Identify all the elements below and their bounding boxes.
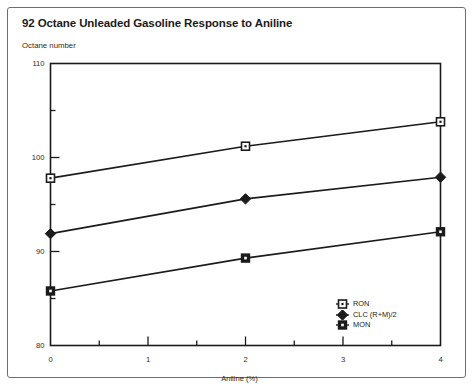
series-1 (47, 118, 445, 182)
x-axis-title: Aniline (%) (0, 374, 475, 383)
marker-open-square-dot (49, 177, 51, 179)
marker-filled-diamond (435, 172, 445, 182)
y-tick-label: 100 (21, 153, 45, 162)
marker-filled-square-dot (341, 324, 344, 327)
legend-item-mon: MON (336, 320, 397, 330)
x-axis-title-text: Aniline (%) (221, 374, 258, 383)
marker-filled-diamond (337, 310, 347, 320)
series-2 (45, 172, 445, 239)
marker-open-square-dot (341, 303, 343, 305)
x-tick-label: 2 (236, 355, 256, 364)
legend-marker-svg (336, 299, 349, 309)
y-tick-label: 90 (21, 247, 45, 256)
legend-marker-svg (336, 310, 349, 320)
plot-svg (0, 0, 475, 392)
marker-filled-square-dot (244, 257, 247, 260)
x-tick-label: 3 (333, 355, 353, 364)
legend-filled-diamond-icon (336, 310, 349, 320)
legend-item-label: MON (353, 320, 370, 330)
y-tick-label: 110 (21, 59, 45, 68)
legend-item-label: CLC (R+M)/2 (353, 310, 397, 320)
marker-open-square-dot (244, 145, 246, 147)
marker-filled-diamond (240, 194, 250, 204)
x-tick-label: 4 (431, 355, 451, 364)
legend-filled-square-icon (336, 320, 349, 330)
x-tick-label: 0 (41, 355, 61, 364)
series-line (51, 177, 441, 233)
legend-item-label: RON (353, 299, 369, 309)
legend-item-ron: RON (336, 299, 397, 309)
legend-item-clc-r-m-2: CLC (R+M)/2 (336, 310, 397, 320)
figure-canvas: 92 Octane Unleaded Gasoline Response to … (0, 0, 475, 392)
marker-filled-diamond (45, 228, 55, 238)
y-tick-label: 80 (21, 341, 45, 350)
series-3 (47, 228, 445, 295)
marker-filled-square-dot (439, 230, 442, 233)
legend-marker-svg (336, 320, 349, 330)
marker-filled-square-dot (49, 290, 52, 293)
legend-open-square-icon (336, 299, 349, 309)
x-tick-label: 1 (138, 355, 158, 364)
chart-legend: RONCLC (R+M)/2MON (336, 299, 397, 331)
marker-open-square-dot (439, 121, 441, 123)
plot-area (0, 0, 475, 392)
